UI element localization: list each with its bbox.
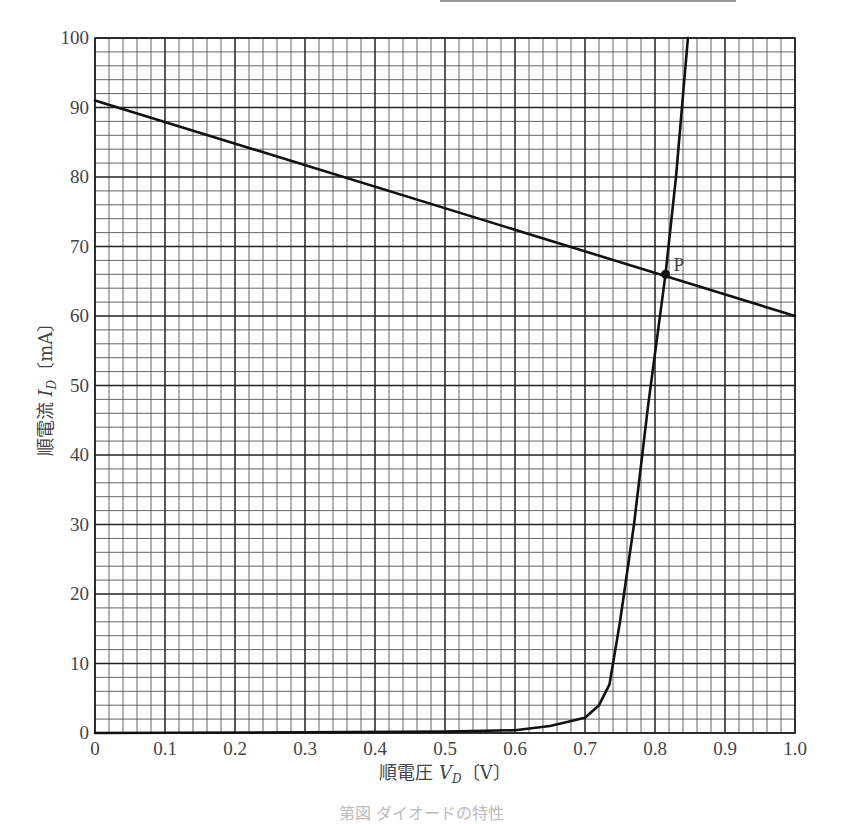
x-tick-label: 0.6 — [503, 738, 527, 759]
y-tick-label: 40 — [70, 444, 89, 465]
y-tick-label: 100 — [61, 27, 90, 48]
x-tick-label: 0.8 — [643, 738, 667, 759]
figure-caption: 第図 ダイオードの特性 — [0, 800, 843, 824]
x-axis-label: 順電圧 VD〔V〕 — [379, 762, 510, 786]
major-grid — [95, 38, 795, 733]
y-tick-label: 70 — [70, 236, 89, 257]
x-tick-label: 0.4 — [363, 738, 387, 759]
operating-point-marker — [661, 270, 670, 279]
x-tick-label: 1.0 — [783, 738, 807, 759]
y-tick-label: 0 — [80, 722, 90, 743]
x-tick-label: 0.1 — [153, 738, 177, 759]
y-axis-ticks: 0102030405060708090100 — [61, 27, 90, 743]
x-tick-label: 0 — [90, 738, 100, 759]
y-tick-label: 30 — [70, 514, 89, 535]
operating-point-label: P — [674, 254, 685, 275]
x-tick-label: 0.7 — [573, 738, 597, 759]
x-tick-label: 0.3 — [293, 738, 317, 759]
x-axis-ticks: 00.10.20.30.40.50.60.70.80.91.0 — [90, 738, 807, 759]
y-tick-label: 80 — [70, 166, 89, 187]
x-tick-label: 0.5 — [433, 738, 457, 759]
x-tick-label: 0.9 — [713, 738, 737, 759]
y-tick-label: 60 — [70, 305, 89, 326]
y-tick-label: 90 — [70, 97, 89, 118]
y-tick-label: 50 — [70, 375, 89, 396]
y-tick-label: 20 — [70, 583, 89, 604]
x-tick-label: 0.2 — [223, 738, 247, 759]
y-axis-label: 順電流 ID〔mA〕 — [35, 314, 59, 457]
y-tick-label: 10 — [70, 653, 89, 674]
